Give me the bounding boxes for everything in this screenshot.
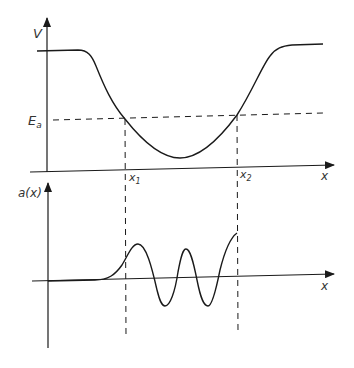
turning-point-1-label: x1: [128, 171, 141, 186]
top-x-axis-label: x: [320, 169, 329, 183]
turning-point-2-dashed-line: [237, 115, 238, 333]
a-axis-label: a(x): [18, 186, 42, 200]
energy-level-label: Ea: [28, 113, 42, 130]
energy-level-line: [53, 113, 323, 120]
top-x-axis: [30, 165, 334, 172]
bottom-x-axis-label: x: [320, 279, 329, 293]
wavefunction-curve: [48, 233, 237, 306]
turning-point-1-dashed-line: [125, 119, 126, 335]
bottom-panel: a(x) x: [18, 183, 334, 348]
turning-point-2-label: x2: [239, 168, 252, 183]
v-axis-label: V: [33, 26, 43, 41]
potential-well-diagram: V x Ea x1 x2 a(x) x: [0, 0, 354, 368]
potential-curve: [37, 44, 323, 158]
top-panel: V x Ea x1 x2: [28, 18, 334, 186]
